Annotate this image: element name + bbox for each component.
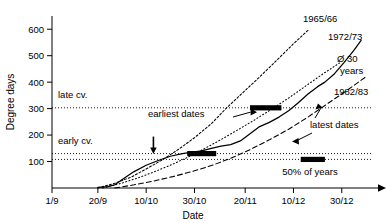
early-cv-label: early cv. [58, 135, 93, 146]
early-cv-range-bar [187, 151, 216, 156]
y-tick-label: 600 [28, 24, 44, 35]
x-tick-label: 30/12 [330, 195, 354, 206]
y-axis-tick-labels: 100200300400500600 [28, 24, 44, 167]
x-tick-label: 1/9 [45, 195, 58, 206]
x-tick-label: 20/11 [234, 195, 257, 206]
x-axis-ticks [52, 188, 342, 193]
latest-dates-arrow-up [315, 104, 323, 119]
series-label-1982-83: 1982/83 [334, 86, 368, 97]
chart-canvas: 100200300400500600 1/920/910/1030/1020/1… [0, 0, 387, 223]
annotation-earliest-dates: earliest dates [148, 108, 205, 119]
x-tick-label: 20/9 [89, 195, 108, 206]
y-tick-label: 100 [28, 156, 44, 167]
legend-label-50-percent-of-years: 50% of years [282, 166, 338, 177]
series-label-avg-30-years-line1: Ø 30 [337, 53, 358, 64]
down-arrow-marker-head [150, 148, 156, 155]
degree-days-chart: 100200300400500600 1/920/910/1030/1020/1… [0, 0, 387, 223]
x-axis-tick-labels: 1/920/910/1030/1020/1110/1230/12 [45, 195, 353, 206]
y-tick-label: 400 [28, 77, 44, 88]
x-tick-label: 30/10 [183, 195, 207, 206]
y-tick-label: 500 [28, 50, 44, 61]
x-tick-label: 10/10 [134, 195, 158, 206]
series-label-avg-30-years-line2: years [340, 65, 363, 76]
series-label-1972-73: 1972/73 [328, 31, 362, 42]
x-axis-arrowhead [378, 184, 386, 192]
x-tick-label: 10/12 [282, 195, 306, 206]
series-label-1965-66: 1965/66 [303, 13, 337, 24]
y-axis-title: Degree days [5, 74, 16, 131]
latest-dates-arrow-down [292, 133, 312, 145]
point-markers [150, 137, 156, 155]
late-cv-label: late cv. [58, 89, 87, 100]
y-tick-label: 200 [28, 129, 44, 140]
y-tick-label: 300 [28, 103, 44, 114]
legend-range-bar [301, 157, 325, 162]
annotation-latest-dates: latest dates [310, 119, 359, 130]
x-axis-title: Date [182, 210, 204, 221]
series-curves [98, 30, 366, 188]
late-cv-range-bar [250, 105, 281, 110]
y-axis-ticks [47, 29, 52, 161]
